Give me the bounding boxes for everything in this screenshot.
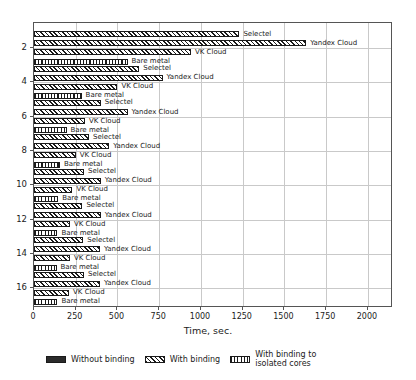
bar-label-yandex-cloud-threads-14: Yandex Cloud xyxy=(104,246,151,253)
bar-vk-cloud-threads-16 xyxy=(34,290,69,296)
y-tick-mark-2 xyxy=(30,47,33,48)
bar-selectel-threads-2 xyxy=(34,31,239,37)
y-tick-label-6: 6 xyxy=(0,111,27,121)
legend-label-1: With binding xyxy=(170,355,221,364)
bar-vk-cloud-threads-6 xyxy=(34,118,85,124)
bar-selectel-threads-12 xyxy=(34,203,82,209)
legend-swatch-solid xyxy=(46,356,66,363)
bar-label-yandex-cloud-threads-4: Yandex Cloud xyxy=(167,74,214,81)
bar-yandex-cloud-threads-4 xyxy=(34,75,163,81)
bar-selectel-threads-16 xyxy=(34,272,84,278)
legend-swatch-vertical-hatch xyxy=(230,356,250,363)
bar-selectel-threads-4 xyxy=(34,66,139,72)
bar-label-vk-cloud-threads-14: VK Cloud xyxy=(74,255,106,262)
y-tick-label-8: 8 xyxy=(0,145,27,155)
x-tick-label-1000: 1000 xyxy=(190,312,210,321)
bar-yandex-cloud-threads-8 xyxy=(34,143,109,149)
gridline-x-1250 xyxy=(243,23,244,306)
y-tick-label-16: 16 xyxy=(0,282,27,292)
bar-bare-metal-threads-10 xyxy=(34,196,58,202)
bar-selectel-threads-14 xyxy=(34,237,83,243)
x-tick-label-1250: 1250 xyxy=(232,312,252,321)
y-tick-mark-4 xyxy=(30,81,33,82)
y-tick-mark-14 xyxy=(30,253,33,254)
bar-selectel-threads-6 xyxy=(34,100,101,106)
bar-yandex-cloud-threads-10 xyxy=(34,178,101,184)
bar-vk-cloud-threads-12 xyxy=(34,221,70,227)
gridline-x-1750 xyxy=(326,23,327,306)
y-tick-label-2: 2 xyxy=(0,42,27,52)
bar-label-selectel-threads-16: Selectel xyxy=(88,271,116,278)
legend-label-0: Without binding xyxy=(71,355,135,364)
legend-entry-1: With binding xyxy=(145,355,221,364)
bar-bare-metal-threads-2 xyxy=(34,59,128,65)
bar-label-yandex-cloud-threads-16: Yandex Cloud xyxy=(104,280,151,287)
bar-label-vk-cloud-threads-4: VK Cloud xyxy=(121,83,153,90)
x-tick-mark-750 xyxy=(158,307,159,310)
y-tick-label-12: 12 xyxy=(0,214,27,224)
bar-label-vk-cloud-threads-12: VK Cloud xyxy=(74,221,106,228)
bar-label-vk-cloud-threads-16: VK Cloud xyxy=(73,289,105,296)
gridline-x-1000 xyxy=(201,23,202,306)
y-tick-mark-6 xyxy=(30,116,33,117)
bar-label-bare-metal-threads-16: Bare metal xyxy=(61,298,99,305)
gridline-x-2000 xyxy=(368,23,369,306)
gridline-y-6 xyxy=(34,117,391,118)
bar-label-vk-cloud-threads-8: VK Cloud xyxy=(80,152,112,159)
bar-label-selectel-threads-8: Selectel xyxy=(93,134,121,141)
x-tick-mark-1750 xyxy=(325,307,326,310)
bar-selectel-threads-8 xyxy=(34,134,89,140)
x-tick-mark-2000 xyxy=(367,307,368,310)
x-tick-mark-1500 xyxy=(283,307,284,310)
y-tick-mark-10 xyxy=(30,184,33,185)
x-tick-mark-1250 xyxy=(242,307,243,310)
gridline-x-1500 xyxy=(284,23,285,306)
bar-label-vk-cloud-threads-6: VK Cloud xyxy=(89,118,121,125)
bar-yandex-cloud-threads-16 xyxy=(34,281,100,287)
legend-entry-0: Without binding xyxy=(46,355,135,364)
bar-selectel-threads-10 xyxy=(34,169,84,175)
y-tick-mark-12 xyxy=(30,219,33,220)
bar-label-selectel-threads-14: Selectel xyxy=(87,237,115,244)
legend-swatch-diagonal-hatch xyxy=(145,356,165,363)
y-tick-label-14: 14 xyxy=(0,248,27,258)
bar-label-vk-cloud-threads-10: VK Cloud xyxy=(76,186,108,193)
bar-label-yandex-cloud-threads-8: Yandex Cloud xyxy=(113,143,160,150)
x-tick-label-0: 0 xyxy=(30,312,35,321)
bar-bare-metal-threads-6 xyxy=(34,127,67,133)
x-axis-label: Time, sec. xyxy=(0,325,416,336)
x-tick-label-250: 250 xyxy=(67,312,82,321)
x-tick-label-1750: 1750 xyxy=(315,312,335,321)
plot-area: SelectelYandex CloudVK CloudBare metalSe… xyxy=(33,22,392,307)
legend-entry-2: With binding to isolated cores xyxy=(230,350,316,368)
chart-legend: Without bindingWith bindingWith binding … xyxy=(46,344,370,374)
x-tick-label-750: 750 xyxy=(151,312,166,321)
bar-label-yandex-cloud-threads-6: Yandex Cloud xyxy=(132,109,179,116)
x-tick-label-2000: 2000 xyxy=(357,312,377,321)
bar-bare-metal-threads-8 xyxy=(34,162,60,168)
x-tick-label-500: 500 xyxy=(109,312,124,321)
bar-bare-metal-threads-12 xyxy=(34,230,57,236)
legend-label-2: With binding to isolated cores xyxy=(255,350,316,368)
y-tick-mark-8 xyxy=(30,150,33,151)
bar-chart-figure: SelectelYandex CloudVK CloudBare metalSe… xyxy=(0,0,416,380)
bar-yandex-cloud-threads-2 xyxy=(34,40,306,46)
bar-bare-metal-threads-4 xyxy=(34,93,82,99)
y-tick-label-10: 10 xyxy=(0,179,27,189)
x-tick-mark-1000 xyxy=(200,307,201,310)
bar-label-yandex-cloud-threads-10: Yandex Cloud xyxy=(105,177,152,184)
bar-yandex-cloud-threads-12 xyxy=(34,212,101,218)
x-tick-mark-500 xyxy=(116,307,117,310)
bar-yandex-cloud-threads-6 xyxy=(34,109,128,115)
bar-label-selectel-threads-4: Selectel xyxy=(143,65,171,72)
bar-vk-cloud-threads-8 xyxy=(34,152,76,158)
bar-vk-cloud-threads-14 xyxy=(34,255,70,261)
bar-label-yandex-cloud-threads-2: Yandex Cloud xyxy=(310,40,357,47)
bar-bare-metal-threads-16 xyxy=(34,299,57,305)
bar-label-yandex-cloud-threads-12: Yandex Cloud xyxy=(105,212,152,219)
y-tick-mark-16 xyxy=(30,287,33,288)
bar-label-selectel-threads-6: Selectel xyxy=(105,99,133,106)
x-tick-mark-0 xyxy=(33,307,34,310)
bar-vk-cloud-threads-4 xyxy=(34,84,117,90)
bar-label-selectel-threads-2: Selectel xyxy=(243,31,271,38)
